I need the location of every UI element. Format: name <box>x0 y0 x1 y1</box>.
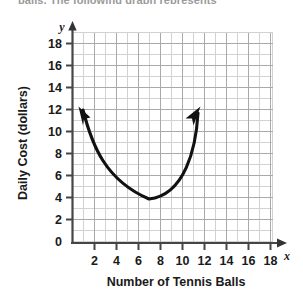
y-tick-label: 12 <box>48 103 62 117</box>
y-axis-title: Daily Cost (dollars) <box>16 38 30 248</box>
y-tick-label: 16 <box>48 59 62 73</box>
graph-figure: balls. The following graph represents <box>0 0 303 298</box>
x-tick-label: 14 <box>220 254 234 268</box>
x-axis-variable-name: x <box>283 249 290 263</box>
y-tick-label: 14 <box>48 81 62 95</box>
x-axis-title: Number of Tennis Balls <box>60 275 292 289</box>
y-tick-label: 6 <box>55 169 62 183</box>
y-tick-label-zero: 0 <box>55 235 62 249</box>
x-tick-label: 16 <box>242 254 256 268</box>
x-axis <box>71 239 287 248</box>
grid-minor-lines <box>73 33 273 243</box>
y-tick-labels: 18 16 14 12 10 8 6 4 2 0 <box>48 37 62 249</box>
x-tick-label: 12 <box>198 254 212 268</box>
y-tick-label: 8 <box>55 147 62 161</box>
graph-svg: 18 16 14 12 10 8 6 4 2 0 2 4 6 8 10 12 1… <box>0 0 303 298</box>
x-tick-label: 4 <box>113 254 120 268</box>
y-tick-label: 10 <box>48 125 62 139</box>
y-tick-label: 2 <box>55 213 62 227</box>
y-axis-variable-name: y <box>57 20 65 34</box>
x-tick-label: 2 <box>91 254 98 268</box>
x-tick-label: 10 <box>176 254 190 268</box>
x-tick-label: 6 <box>135 254 142 268</box>
x-tick-labels: 2 4 6 8 10 12 14 16 18 <box>91 254 277 268</box>
grid-major-lines <box>73 33 273 243</box>
y-tick-label: 18 <box>48 37 62 51</box>
x-tick-label: 8 <box>157 254 164 268</box>
y-tick-label: 4 <box>55 191 62 205</box>
coordinate-plane: 18 16 14 12 10 8 6 4 2 0 2 4 6 8 10 12 1… <box>0 0 303 298</box>
x-tick-label: 18 <box>264 254 278 268</box>
